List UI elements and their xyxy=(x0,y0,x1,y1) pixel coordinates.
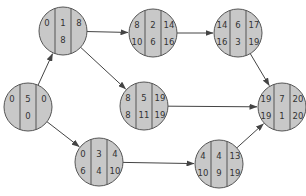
node-value-lf: 19 xyxy=(155,110,166,120)
node-value-ls: 10 xyxy=(132,37,143,47)
edge-a-to-d xyxy=(81,47,126,89)
node-a: 0188 xyxy=(39,7,87,55)
node-value-ef: 20 xyxy=(293,94,304,104)
node-value-es: 19 xyxy=(261,94,272,104)
node-g: 1972019120 xyxy=(258,83,306,131)
node-c: 1461716319 xyxy=(214,9,262,57)
node-value-es: 0 xyxy=(9,94,14,104)
node-value-es: 4 xyxy=(200,151,205,161)
node-value-lf: 20 xyxy=(293,111,304,121)
node-value-ef: 8 xyxy=(76,18,81,28)
node-value-slack: 0 xyxy=(25,111,30,121)
node-b: 821410616 xyxy=(129,9,177,57)
node-value-dur: 5 xyxy=(25,94,30,104)
edge-start-to-e xyxy=(47,122,79,147)
node-value-es: 0 xyxy=(44,18,49,28)
node-value-slack: 9 xyxy=(216,168,221,178)
nodes-layer: 0500018882141061614617163198519811190346… xyxy=(4,7,306,188)
node-value-slack: 8 xyxy=(60,35,65,45)
node-value-slack: 6 xyxy=(150,37,155,47)
node-value-es: 8 xyxy=(134,20,139,30)
node-value-ls: 6 xyxy=(80,166,85,176)
node-value-dur: 4 xyxy=(216,151,221,161)
node-value-slack: 1 xyxy=(279,111,284,121)
edge-f-to-g xyxy=(237,124,264,148)
edge-e-to-f xyxy=(123,162,194,163)
node-e: 0346410 xyxy=(75,138,123,186)
node-value-ls: 10 xyxy=(198,168,209,178)
network-diagram: 0500018882141061614617163198519811190346… xyxy=(0,0,306,196)
node-value-lf: 19 xyxy=(249,37,260,47)
node-value-ls: 19 xyxy=(261,111,272,121)
edge-start-to-a xyxy=(38,54,53,85)
node-value-ef: 0 xyxy=(41,94,46,104)
node-value-dur: 1 xyxy=(60,18,65,28)
node-value-dur: 2 xyxy=(150,20,155,30)
node-value-dur: 7 xyxy=(279,94,284,104)
node-value-ef: 4 xyxy=(112,149,117,159)
diagram-svg: 0500018882141061614617163198519811190346… xyxy=(0,0,306,196)
edge-a-to-b xyxy=(87,32,128,33)
node-value-es: 8 xyxy=(125,93,130,103)
edge-d-to-g xyxy=(168,106,257,107)
node-value-ls: 16 xyxy=(217,37,228,47)
edge-c-to-g xyxy=(250,54,269,86)
node-d: 851981119 xyxy=(120,82,168,130)
node-value-ef: 19 xyxy=(155,93,166,103)
node-start: 0500 xyxy=(4,83,52,131)
node-value-lf: 10 xyxy=(110,166,121,176)
node-value-es: 14 xyxy=(217,20,228,30)
node-value-ls: 8 xyxy=(125,110,130,120)
node-value-ef: 17 xyxy=(249,20,260,30)
node-value-dur: 3 xyxy=(96,149,101,159)
node-value-slack: 3 xyxy=(235,37,240,47)
node-value-ef: 14 xyxy=(164,20,175,30)
node-value-ef: 13 xyxy=(230,151,241,161)
node-value-lf: 16 xyxy=(164,37,175,47)
node-value-dur: 5 xyxy=(141,93,146,103)
node-value-es: 0 xyxy=(80,149,85,159)
node-f: 441310919 xyxy=(195,140,243,188)
node-value-slack: 11 xyxy=(139,110,150,120)
node-value-slack: 4 xyxy=(96,166,101,176)
node-value-dur: 6 xyxy=(235,20,240,30)
node-value-lf: 19 xyxy=(230,168,241,178)
